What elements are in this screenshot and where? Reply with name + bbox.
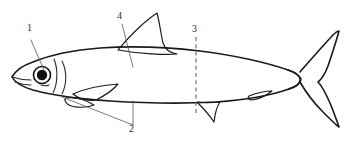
callout-label-1: 1 xyxy=(27,23,32,33)
anal-fin xyxy=(197,102,220,122)
fish-eye-group xyxy=(34,67,51,84)
pectoral-fin xyxy=(73,84,118,100)
fish-line-drawing xyxy=(0,0,347,145)
nostril-mark xyxy=(41,85,49,86)
paired-fins-group xyxy=(65,84,118,107)
callout-label-4: 4 xyxy=(117,11,122,21)
body-outline xyxy=(12,47,301,103)
peduncle-lower-edge xyxy=(289,80,300,89)
anal-fin-group xyxy=(197,102,220,122)
gill-curve-outer xyxy=(62,61,66,94)
eye-pupil-icon xyxy=(37,70,47,80)
mouth-upper-line xyxy=(12,77,31,80)
operculum-arc xyxy=(53,59,57,93)
leader-line-1 xyxy=(31,40,44,70)
peduncle-upper-edge xyxy=(288,70,300,79)
callout-label-2: 2 xyxy=(129,124,134,134)
leader-line-4 xyxy=(122,24,133,67)
caudal-fin xyxy=(300,31,339,127)
caudal-group xyxy=(288,31,339,127)
fish-body-group xyxy=(12,47,301,103)
callout-label-3: 3 xyxy=(192,24,197,34)
fish-figure: 1 2 3 4 xyxy=(0,0,347,145)
